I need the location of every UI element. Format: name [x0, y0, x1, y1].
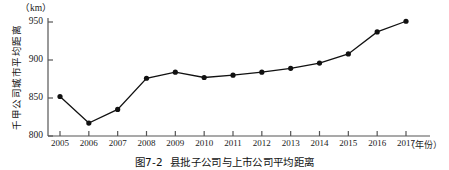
data-point [346, 51, 351, 56]
y-tick-label: 800 [17, 130, 43, 140]
data-point-markers [57, 19, 408, 126]
data-point [57, 94, 62, 99]
figure-caption-number: 图7-2 [135, 156, 163, 168]
y-tick-marks [48, 22, 53, 136]
x-tick-marks [60, 131, 406, 136]
data-point [144, 76, 149, 81]
data-point [86, 120, 91, 125]
data-point [230, 73, 235, 78]
x-axis-unit-label: （年份） [406, 138, 442, 151]
data-point [202, 75, 207, 80]
data-point [115, 107, 120, 112]
y-tick-label: 900 [17, 54, 43, 64]
figure-caption-text: 县批子公司与上市公司平均距离 [170, 156, 314, 168]
figure-container: （km） 千甲公司城市平均距离 800850900950 20052006200… [0, 0, 449, 170]
y-tick-label: 950 [17, 16, 43, 26]
data-point [403, 19, 408, 24]
figure-caption: 图7-2县批子公司与上市公司平均距离 [0, 154, 449, 169]
data-point [375, 29, 380, 34]
data-point [173, 70, 178, 75]
data-point [317, 60, 322, 65]
y-tick-label: 850 [17, 92, 43, 102]
data-series-line [60, 21, 406, 123]
data-point [259, 70, 264, 75]
data-point [288, 66, 293, 71]
